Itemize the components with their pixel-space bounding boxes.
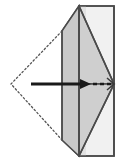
lower-folded-flap	[62, 84, 79, 156]
diagram-canvas	[0, 0, 122, 168]
upper-folded-flap	[62, 6, 79, 84]
fold-diagram-figure	[0, 0, 122, 168]
